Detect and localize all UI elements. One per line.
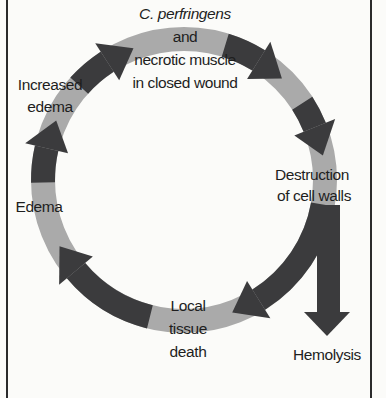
label-local: Local [170,297,205,314]
arrow-edema-to-increased-edema-body [31,146,58,183]
label-necrotic-muscle: necrotic muscle [134,51,236,68]
label-hemolysis: Hemolysis [293,346,362,363]
label-destruction: Destruction [275,166,349,183]
label-and: and [173,28,198,45]
hemolysis-arrow-head [304,312,350,336]
arrow-tissue-death-to-edema-body [67,263,153,329]
label-increased: Increased [18,76,82,93]
label-edema: Edema [15,198,63,215]
label-increased-edema: edema [27,98,73,115]
label-death: death [170,343,207,360]
label-closed-wound: in closed wound [132,74,237,91]
label-cell-walls: of cell walls [277,187,352,204]
label-tissue: tissue [169,320,207,337]
label-c-perfringens: C. perfringens [139,5,231,22]
hemolysis-arrow-shaft [317,205,340,312]
